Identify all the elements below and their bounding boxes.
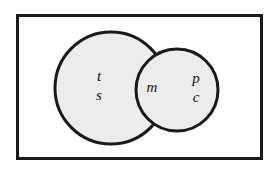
label-s: s (96, 87, 102, 103)
label-c: c (193, 89, 200, 105)
label-m: m (147, 79, 158, 95)
venn-diagram-canvas: t s m p c (0, 0, 278, 174)
label-p: p (191, 70, 200, 86)
venn-diagram-figure: t s m p c (0, 0, 278, 174)
